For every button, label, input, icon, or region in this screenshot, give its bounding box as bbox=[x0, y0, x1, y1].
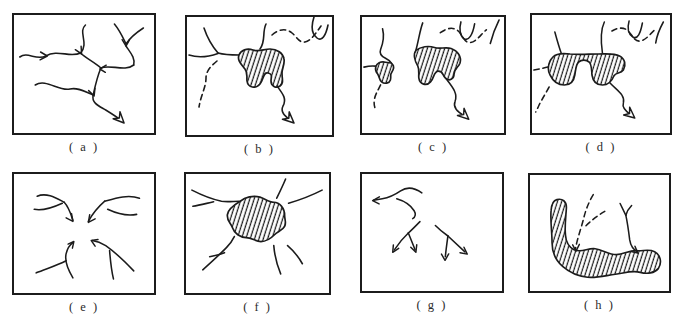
stream-path bbox=[445, 236, 448, 257]
stream-path bbox=[555, 32, 562, 54]
stream-path bbox=[114, 24, 126, 44]
panel-f: ( f ) bbox=[184, 172, 331, 315]
panel-f-drawing bbox=[186, 174, 329, 293]
stream-path bbox=[34, 203, 62, 210]
stream-path bbox=[108, 209, 137, 215]
stream-path bbox=[610, 83, 631, 115]
panel-c-frame bbox=[360, 15, 506, 135]
stream-path bbox=[203, 237, 235, 270]
stream-path bbox=[105, 197, 140, 202]
panel-c: ( c ) bbox=[360, 15, 506, 155]
lake-region bbox=[551, 199, 661, 277]
lake-region bbox=[414, 46, 460, 84]
stream-path bbox=[288, 246, 303, 264]
stream-path bbox=[446, 79, 465, 116]
stream-path bbox=[92, 241, 134, 271]
arrowhead bbox=[66, 214, 73, 222]
panel-h-caption: ( h ) bbox=[528, 298, 671, 313]
stream-path bbox=[289, 190, 323, 203]
panel-g-drawing bbox=[362, 174, 502, 291]
stream-path bbox=[626, 205, 632, 215]
stream-path bbox=[656, 22, 664, 43]
stream-path bbox=[490, 20, 499, 44]
stream-path bbox=[260, 24, 266, 49]
panel-d: ( d ) bbox=[530, 13, 672, 155]
stream-path bbox=[204, 28, 218, 53]
panel-a-frame bbox=[12, 13, 156, 135]
stream-path bbox=[277, 86, 290, 120]
lake-region bbox=[376, 62, 394, 83]
panel-b-drawing bbox=[187, 17, 332, 135]
panel-e-drawing bbox=[14, 174, 154, 293]
stream-path bbox=[36, 261, 66, 273]
stream-path bbox=[20, 53, 81, 57]
arrowhead bbox=[91, 240, 98, 247]
stream-path bbox=[448, 236, 465, 252]
dashed-stream-path bbox=[534, 67, 548, 70]
panel-d-caption: ( d ) bbox=[530, 140, 672, 155]
panel-c-drawing bbox=[362, 17, 504, 133]
panel-f-frame bbox=[184, 172, 331, 295]
outlet-arrowhead bbox=[457, 108, 468, 119]
panel-g: ( g ) bbox=[360, 172, 504, 313]
stream-path bbox=[364, 66, 376, 67]
stream-path bbox=[274, 246, 281, 274]
stream-path bbox=[192, 190, 239, 202]
panel-f-caption: ( f ) bbox=[184, 300, 331, 315]
panel-e: ( e ) bbox=[12, 172, 156, 315]
panel-a-drawing bbox=[14, 15, 154, 133]
stream-path bbox=[601, 22, 604, 53]
stream-path bbox=[380, 29, 391, 63]
arrowhead bbox=[40, 52, 47, 60]
panel-g-frame bbox=[360, 172, 504, 293]
dashed-stream-path bbox=[586, 211, 605, 226]
panel-h-frame bbox=[528, 173, 671, 293]
stream-path bbox=[110, 251, 114, 279]
dashed-stream-path bbox=[199, 61, 217, 107]
dashed-stream-path bbox=[612, 28, 656, 41]
panel-e-frame bbox=[12, 172, 156, 295]
stream-path bbox=[81, 53, 101, 68]
panel-b-caption: ( b ) bbox=[185, 142, 334, 157]
panel-h-drawing bbox=[530, 175, 669, 291]
stream-path bbox=[88, 201, 104, 221]
panel-e-caption: ( e ) bbox=[12, 300, 156, 315]
stream-path bbox=[35, 83, 93, 95]
panel-h: ( h ) bbox=[528, 173, 671, 313]
panel-d-frame bbox=[530, 13, 672, 135]
stream-path bbox=[394, 233, 408, 250]
dashed-stream-path bbox=[536, 87, 549, 112]
stream-path bbox=[218, 53, 239, 55]
panel-a: ( a ) bbox=[12, 13, 156, 155]
stream-path bbox=[628, 21, 642, 38]
outlet-arrowhead bbox=[113, 112, 124, 123]
panel-d-drawing bbox=[532, 15, 670, 133]
lake-region bbox=[238, 49, 284, 87]
stream-path bbox=[460, 22, 475, 39]
figure-drainage-evolution: ( a ) bbox=[0, 0, 682, 328]
panel-g-caption: ( g ) bbox=[360, 298, 504, 313]
stream-path bbox=[193, 202, 214, 207]
dashed-stream-path bbox=[440, 28, 486, 42]
panel-b: ( b ) bbox=[185, 15, 334, 157]
stream-path bbox=[397, 199, 416, 219]
lake-region bbox=[548, 53, 625, 85]
stream-path bbox=[620, 204, 626, 216]
dashed-stream-path bbox=[374, 85, 380, 111]
stream-path bbox=[37, 195, 64, 202]
stream-path bbox=[189, 54, 218, 57]
stream-path bbox=[408, 222, 420, 233]
stream-path bbox=[126, 46, 134, 65]
stream-path bbox=[93, 95, 119, 119]
stream-path bbox=[435, 226, 448, 236]
panel-b-frame bbox=[185, 15, 334, 137]
lake-region bbox=[227, 196, 285, 241]
panel-a-caption: ( a ) bbox=[12, 140, 156, 155]
stream-path bbox=[277, 179, 286, 198]
panel-c-caption: ( c ) bbox=[360, 140, 506, 155]
stream-path bbox=[416, 23, 423, 51]
